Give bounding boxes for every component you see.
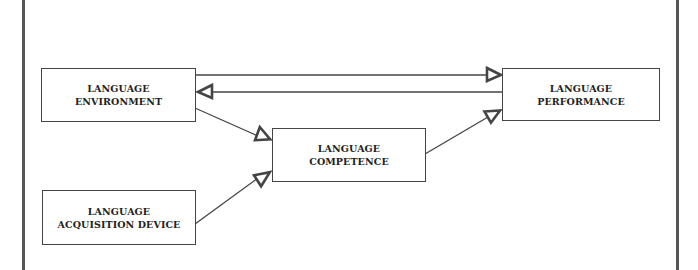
node-label-line: PERFORMANCE <box>537 95 625 108</box>
node-label-line: ENVIRONMENT <box>75 95 162 108</box>
arrowhead-diagonal-up-icon <box>484 104 503 122</box>
edge-lad-to-competence <box>195 178 258 224</box>
node-label-line: LANGUAGE <box>318 142 380 155</box>
edge-environment-to-competence <box>195 108 258 136</box>
node-language-acquisition-device: LANGUAGE ACQUISITION DEVICE <box>42 190 196 245</box>
node-label-line: COMPETENCE <box>309 155 389 168</box>
node-label-line: LANGUAGE <box>550 82 612 95</box>
edge-competence-to-performance <box>425 117 488 154</box>
arrowhead-diagonal-down-icon <box>255 127 273 145</box>
arrowhead-diagonal-up-icon <box>254 167 274 186</box>
node-label-line: LANGUAGE <box>88 205 150 218</box>
node-language-performance: LANGUAGE PERFORMANCE <box>502 68 660 121</box>
arrowhead-right-icon <box>487 68 501 81</box>
node-label-line: ACQUISITION DEVICE <box>58 218 181 231</box>
node-language-competence: LANGUAGE COMPETENCE <box>272 128 426 182</box>
node-language-environment: LANGUAGE ENVIRONMENT <box>41 68 196 122</box>
node-label-line: LANGUAGE <box>87 82 149 95</box>
arrowhead-left-icon <box>198 85 212 98</box>
